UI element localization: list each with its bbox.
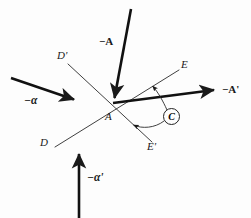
- label-minus-A-prime: −A': [222, 84, 239, 95]
- label-minus-A: −A: [99, 36, 113, 47]
- line-D-prime-E-prime: [68, 64, 152, 142]
- label-E-prime: E': [147, 141, 156, 152]
- label-D: D: [40, 137, 48, 148]
- label-vertex-A: A: [105, 111, 112, 122]
- angle-marker-c-label: C: [168, 111, 175, 122]
- label-E: E: [181, 59, 188, 70]
- vector-minus-A-prime: [113, 90, 214, 103]
- vector-diagram-figure: C −A −A' −α −α' D' D E E' A: [0, 0, 251, 218]
- vector-minus-alpha: [11, 78, 74, 100]
- label-D-prime: D': [57, 50, 67, 61]
- angle-arcs: [134, 86, 168, 127]
- label-minus-alpha-prime: −α': [87, 172, 104, 184]
- thin-construction-lines: [55, 64, 179, 147]
- label-minus-alpha: −α: [24, 95, 37, 107]
- angle-marker-c-badge: C: [163, 108, 180, 125]
- vector-minus-A: [115, 9, 132, 98]
- arc-to-E-prime: [134, 121, 165, 127]
- diagram-canvas: [0, 0, 251, 218]
